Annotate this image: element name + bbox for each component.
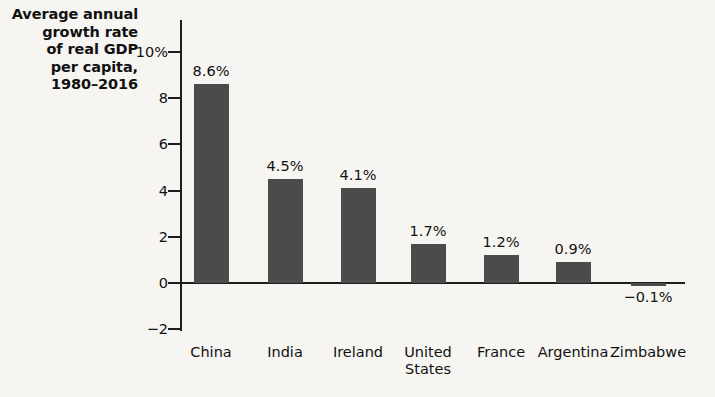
- bar-value-label: 1.7%: [410, 223, 447, 239]
- category-label-line: Argentina: [538, 344, 609, 361]
- bar: [631, 283, 666, 286]
- category-label-line: States: [404, 361, 452, 378]
- bar-value-label: 1.2%: [483, 234, 520, 250]
- y-tick-label: 4: [112, 183, 168, 199]
- category-label-line: China: [190, 344, 231, 361]
- y-tick-mark: [168, 51, 181, 53]
- category-label-line: France: [477, 344, 525, 361]
- bar: [556, 262, 591, 283]
- bar: [194, 84, 229, 283]
- y-axis-line: [180, 20, 182, 331]
- bar: [411, 244, 446, 283]
- category-label: Argentina: [538, 344, 609, 361]
- bar-value-label: 4.5%: [267, 158, 304, 174]
- chart-figure: Average annual growth rate of real GDP p…: [0, 0, 715, 397]
- bar: [341, 188, 376, 283]
- category-label-line: Ireland: [333, 344, 383, 361]
- category-label-line: India: [267, 344, 303, 361]
- category-label: France: [477, 344, 525, 361]
- category-label: Zimbabwe: [610, 344, 686, 361]
- y-tick-label: 10%: [112, 44, 168, 60]
- y-tick-mark: [168, 97, 181, 99]
- bar: [484, 255, 519, 283]
- y-axis-ticks: 10%86420−2: [0, 0, 168, 397]
- bar-value-label: 0.9%: [555, 241, 592, 257]
- y-tick-mark: [168, 190, 181, 192]
- y-tick-label: 8: [112, 90, 168, 106]
- y-tick-label: 0: [112, 275, 168, 291]
- category-label: India: [267, 344, 303, 361]
- y-tick-mark: [168, 236, 181, 238]
- category-label-line: Zimbabwe: [610, 344, 686, 361]
- bar-value-label: 8.6%: [193, 63, 230, 79]
- y-tick-mark: [168, 143, 181, 145]
- y-tick-label: 6: [112, 136, 168, 152]
- y-tick-mark: [168, 328, 181, 330]
- category-label: UnitedStates: [404, 344, 452, 378]
- y-tick-mark: [168, 282, 181, 284]
- bar: [268, 179, 303, 283]
- bar-value-label: 4.1%: [340, 167, 377, 183]
- bar-value-label: −0.1%: [624, 289, 673, 305]
- plot-area: 10%86420−2 8.6%4.5%4.1%1.7%1.2%0.9%−0.1%…: [0, 0, 715, 397]
- y-tick-label: 2: [112, 229, 168, 245]
- category-label-line: United: [404, 344, 452, 361]
- category-label: China: [190, 344, 231, 361]
- category-label: Ireland: [333, 344, 383, 361]
- y-tick-label: −2: [112, 321, 168, 337]
